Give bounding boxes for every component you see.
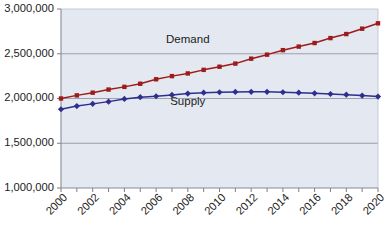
data-point-marker [217,65,221,69]
data-point-marker [376,21,380,25]
y-tick-label: 2,000,000 [4,91,54,103]
data-point-marker [328,36,332,40]
line-chart: 1,000,0001,500,0002,000,0002,500,0003,00… [0,0,389,230]
y-tick-label: 3,000,000 [4,2,54,14]
data-point-marker [360,26,364,30]
data-point-marker [233,61,237,65]
data-point-marker [281,48,285,52]
y-tick-label: 2,500,000 [4,47,54,59]
chart-canvas: 1,000,0001,500,0002,000,0002,500,0003,00… [0,0,389,230]
data-point-marker [170,74,174,78]
data-point-marker [154,77,158,81]
data-point-marker [249,56,253,60]
data-point-marker [186,71,190,75]
data-point-marker [201,68,205,72]
y-tick-label: 1,000,000 [4,181,54,193]
data-point-marker [75,93,79,97]
series-label-supply: Supply [170,95,205,107]
data-point-marker [344,32,348,36]
data-point-marker [297,44,301,48]
series-label-demand: Demand [166,33,209,45]
data-point-marker [91,90,95,94]
data-point-marker [106,87,110,91]
y-tick-label: 1,500,000 [4,136,54,148]
data-point-marker [312,41,316,45]
data-point-marker [59,96,63,100]
data-point-marker [122,85,126,89]
data-point-marker [138,82,142,86]
data-point-marker [265,52,269,56]
